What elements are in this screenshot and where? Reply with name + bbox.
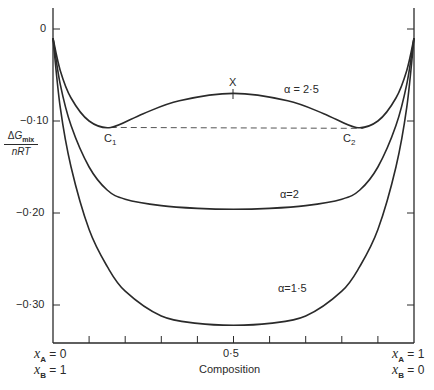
x-tick-label-0-5: 0·5 <box>223 347 239 359</box>
y-tick-label-minus-0-10: −0·10 <box>20 114 48 126</box>
mix-subscript: mix <box>22 136 34 143</box>
xb-val: = 0 <box>407 363 424 377</box>
x-axis-label: Composition <box>199 363 260 375</box>
c1-sub: 1 <box>112 138 116 147</box>
y-axis-label-denominator: nRT <box>4 145 38 157</box>
xa-val: = 0 <box>49 347 66 361</box>
xa-val: = 1 <box>407 347 424 361</box>
y-tick-label-minus-0-30: −0·30 <box>16 298 44 310</box>
curve-label-alpha-2: α=2 <box>280 188 299 200</box>
axes <box>53 8 414 343</box>
y-axis-label: ΔGmix nRT <box>4 130 38 157</box>
curve-alpha-2 <box>53 38 414 209</box>
curve-label-alpha-2-5: α = 2·5 <box>284 83 319 95</box>
xb-sub: B <box>40 371 46 380</box>
c2-main: C <box>343 132 351 144</box>
y-ticks <box>53 29 414 305</box>
free-energy-of-mixing-chart <box>0 0 434 390</box>
point-label-c2: C2 <box>343 132 355 147</box>
y-axis-label-numerator: ΔGmix <box>4 130 38 145</box>
right-end-label-xb: xB = 0 <box>392 362 424 380</box>
c1-main: C <box>104 132 112 144</box>
xb-val: = 1 <box>49 363 66 377</box>
left-end-label-xb: xB = 1 <box>34 362 66 380</box>
common-tangent-line <box>111 127 364 128</box>
point-label-x: X <box>229 76 236 88</box>
y-tick-label-0: 0 <box>40 22 46 34</box>
y-tick-label-minus-0-20: −0·20 <box>16 206 44 218</box>
xb-sub: B <box>398 371 404 380</box>
curve-label-alpha-1-5: α=1·5 <box>278 282 307 294</box>
x-ticks <box>89 336 378 343</box>
point-label-c1: C1 <box>104 132 116 147</box>
c2-sub: 2 <box>351 138 355 147</box>
